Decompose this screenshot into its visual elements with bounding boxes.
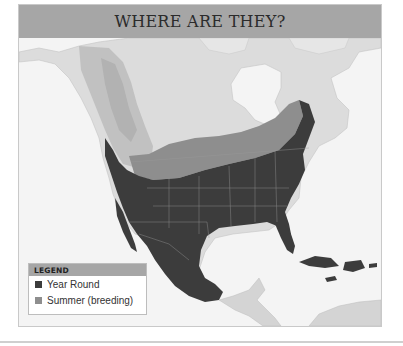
divider [0,341,403,343]
range-map-card: WHERE ARE THEY? [18,4,382,327]
legend-item-year-round: Year Round [29,276,146,293]
map-legend: LEGEND Year Round Summer (breeding) [28,263,147,315]
summer-swatch-icon [35,297,42,304]
legend-title: LEGEND [34,266,69,275]
legend-label: Summer (breeding) [47,295,133,306]
legend-header: LEGEND [29,264,146,276]
legend-label: Year Round [47,279,99,290]
map-title: WHERE ARE THEY? [114,12,285,31]
map-header: WHERE ARE THEY? [19,5,381,38]
legend-item-summer: Summer (breeding) [29,293,146,308]
year-round-swatch-icon [35,281,42,288]
